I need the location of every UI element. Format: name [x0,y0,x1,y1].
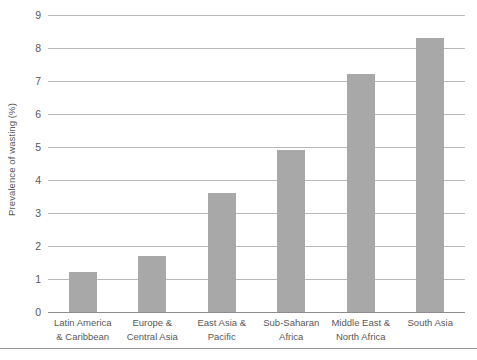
gridline: 1 [48,279,465,280]
bottom-divider [0,348,477,349]
bar [347,74,375,312]
x-axis-category-label-line1: East Asia & [197,317,246,328]
x-axis-category-label-line1: Sub-Saharan [263,317,319,328]
bar-chart: Prevalence of wasting (%) 0123456789 Lat… [0,0,477,360]
x-axis-labels: Latin America& CaribbeanEurope &Central … [48,316,465,350]
bar [416,38,444,312]
y-tick-label: 8 [35,43,41,54]
bar [277,150,305,312]
gridline: 6 [48,114,465,115]
y-tick-label: 7 [35,76,41,87]
gridline: 2 [48,246,465,247]
gridline: 5 [48,147,465,148]
gridline: 9 [48,15,465,16]
gridline: 0 [48,312,465,313]
bar [208,193,236,312]
y-tick-label: 1 [35,274,41,285]
y-tick-label: 5 [35,142,41,153]
gridline: 3 [48,213,465,214]
bar [138,256,166,312]
x-axis-category-label-line2: North Africa [313,330,409,344]
y-tick-label: 6 [35,109,41,120]
gridline: 7 [48,81,465,82]
x-axis-category-label-line1: South Asia [408,317,453,328]
y-tick-label: 9 [35,10,41,21]
gridline: 4 [48,180,465,181]
x-axis-category-label-line1: Europe & [132,317,172,328]
y-tick-label: 2 [35,241,41,252]
y-axis-title-text: Prevalence of wasting (%) [6,103,17,216]
y-tick-label: 3 [35,208,41,219]
gridline: 8 [48,48,465,49]
plot-area: 0123456789 [48,15,465,312]
y-tick-label: 4 [35,175,41,186]
y-axis-title: Prevalence of wasting (%) [0,0,22,318]
x-axis-category-label-line1: Latin America [54,317,112,328]
bar [69,272,97,312]
x-axis-category-label: South Asia [382,316,477,330]
